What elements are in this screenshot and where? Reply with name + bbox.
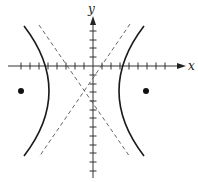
hyperbola-figure: x y [0,0,198,182]
x-axis-arrow-icon [177,63,186,69]
y-axis-arrow-icon [90,16,96,25]
hyperbola-left-branch [24,26,49,156]
focus-point [18,88,24,94]
hyperbola-right-branch [119,26,144,156]
asymptotes [39,24,130,157]
y-axis-label: y [87,2,95,16]
focus-point [143,88,149,94]
y-axis: y [87,2,97,178]
x-axis-label: x [188,59,195,73]
